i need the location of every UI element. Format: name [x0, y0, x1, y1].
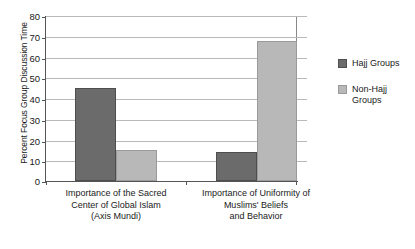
y-tick-label-10: 10 — [29, 158, 40, 168]
chart-legend: Hajj Groups Non-Hajj Groups — [338, 58, 400, 121]
y-tick-mark-60 — [42, 59, 46, 60]
y-tick-label-30: 30 — [29, 116, 40, 126]
y-tick-label-20: 20 — [29, 137, 40, 147]
gridline-overhang-20 — [298, 141, 307, 142]
y-axis-title: Percent Focus Group Discussion Time — [19, 0, 29, 193]
legend-item-non-hajj-groups[interactable]: Non-Hajj Groups — [338, 84, 400, 107]
legend-swatch-non-hajj-groups — [338, 85, 347, 94]
legend-label-hajj-groups: Hajj Groups — [352, 58, 400, 70]
y-tick-mark-80 — [42, 17, 46, 18]
bar-chart-figure: Percent Focus Group Discussion Time 80 7… — [0, 0, 415, 249]
gridline-overhang-70 — [298, 37, 307, 38]
gridline-overhang-80 — [298, 16, 307, 17]
y-tick-label-70: 70 — [29, 33, 40, 43]
y-tick-label-0: 0 — [35, 177, 40, 187]
y-tick-mark-40 — [42, 100, 46, 101]
bar-nonhajj-axis-mundi[interactable] — [116, 150, 157, 181]
gridline-overhang-60 — [298, 58, 307, 59]
gridline-70: 70 — [46, 37, 298, 38]
y-tick-mark-30 — [42, 121, 46, 122]
y-tick-mark-50 — [42, 79, 46, 80]
bar-nonhajj-uniformity[interactable] — [257, 41, 297, 181]
y-tick-mark-20 — [42, 142, 46, 143]
x-tick-mark-middle — [186, 181, 187, 185]
gridline-overhang-40 — [298, 99, 307, 100]
y-tick-mark-10 — [42, 162, 46, 163]
y-tick-label-80: 80 — [29, 12, 40, 22]
y-tick-label-60: 60 — [29, 54, 40, 64]
gridline-overhang-10 — [298, 161, 307, 162]
x-tick-mark-right — [296, 181, 297, 185]
x-category-label-uniformity: Importance of Uniformity of Muslims' Bel… — [168, 188, 344, 223]
gridline-0: 0 — [46, 181, 298, 182]
gridline-overhang-50 — [298, 78, 307, 79]
legend-label-non-hajj-groups: Non-Hajj Groups — [352, 84, 387, 107]
bar-hajj-axis-mundi[interactable] — [75, 88, 116, 181]
y-tick-label-40: 40 — [29, 95, 40, 105]
plot-area: 80 70 60 50 40 30 20 — [45, 16, 297, 182]
gridline-80: 80 — [46, 16, 298, 17]
legend-item-hajj-groups[interactable]: Hajj Groups — [338, 58, 400, 70]
legend-swatch-hajj-groups — [338, 59, 347, 68]
y-tick-label-50: 50 — [29, 75, 40, 85]
bar-hajj-uniformity[interactable] — [216, 152, 257, 181]
x-tick-mark-left — [46, 181, 47, 185]
gridline-overhang-30 — [298, 120, 307, 121]
y-tick-mark-70 — [42, 38, 46, 39]
